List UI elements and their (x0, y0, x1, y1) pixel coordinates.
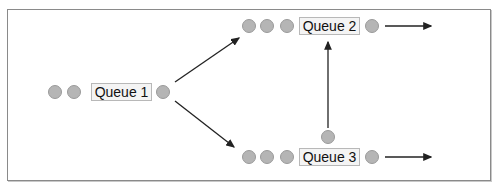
queue-item-icon (242, 150, 256, 164)
queue-item-icon (280, 19, 294, 33)
queue-item-icon (67, 85, 81, 99)
queue-2-box: Queue 2 (299, 17, 360, 35)
queue-item-icon (280, 150, 294, 164)
queue-item-icon (365, 150, 379, 164)
queue-item-icon (156, 85, 170, 99)
queue-item-icon (321, 130, 335, 144)
arrow-q1-to-q3 (175, 101, 234, 147)
arrow-q1-to-q2 (175, 38, 239, 82)
queue-item-icon (260, 19, 274, 33)
queue-1-box: Queue 1 (91, 83, 152, 101)
queue-item-icon (48, 85, 62, 99)
queue-item-icon (365, 19, 379, 33)
queue-item-icon (260, 150, 274, 164)
queue-item-icon (242, 19, 256, 33)
queue-3-box: Queue 3 (299, 148, 360, 166)
